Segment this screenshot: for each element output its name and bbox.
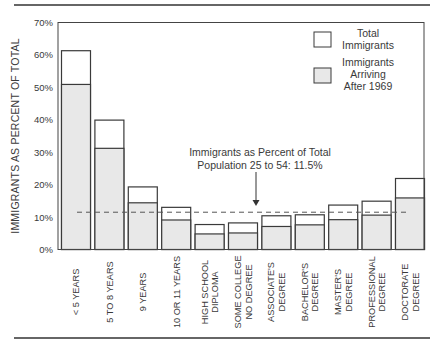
x-category-label: NO DEGREE <box>244 264 254 319</box>
x-category-label: BACHELOR'S <box>300 263 310 321</box>
y-tick-label: 40% <box>34 114 54 125</box>
bar-group <box>229 223 258 250</box>
legend-label: Immigrants <box>342 39 394 51</box>
x-category-label: < 5 YEARS <box>71 269 81 316</box>
bar-group <box>195 225 224 250</box>
legend-swatch <box>314 32 331 47</box>
bar-arriving-after-1969 <box>195 234 224 250</box>
x-category-label: ASSOCIATE'S <box>266 262 276 322</box>
annotation-text: Immigrants as Percent of Total <box>189 146 331 158</box>
annotation-text: Population 25 to 54: 11.5% <box>197 159 322 171</box>
bar-arriving-after-1969 <box>262 226 291 249</box>
x-category-label: MASTER'S <box>333 269 343 315</box>
bar-group <box>295 215 324 250</box>
bar-group <box>162 207 191 249</box>
bar-arriving-after-1969 <box>128 203 157 250</box>
bar-arriving-after-1969 <box>329 220 358 250</box>
x-category-label: DEGREE <box>277 273 287 312</box>
y-tick-label: 10% <box>34 212 54 223</box>
immigrants-education-bar-chart: IMMIGRANTS AS PERCENT OF TOTAL 0%10%20%3… <box>0 0 440 350</box>
legend: TotalImmigrantsImmigrantsArrivingAfter 1… <box>314 27 394 92</box>
x-category-label: DEGREE <box>310 273 320 312</box>
x-category-label: HIGH SCHOOL <box>200 260 210 324</box>
y-tick-label: 30% <box>34 147 54 158</box>
bar-group <box>262 216 291 250</box>
y-tick-label: 0% <box>39 244 53 255</box>
x-category-label: DEGREE <box>344 273 354 312</box>
bar-arriving-after-1969 <box>295 225 324 250</box>
legend-label: Arriving <box>350 68 386 80</box>
y-tick-label: 60% <box>34 49 54 60</box>
bar-arriving-after-1969 <box>95 148 124 249</box>
legend-swatch <box>314 68 331 83</box>
y-axis-label: IMMIGRANTS AS PERCENT OF TOTAL <box>9 38 21 233</box>
y-axis-title: IMMIGRANTS AS PERCENT OF TOTAL <box>9 38 21 233</box>
x-category-label: 5 TO 8 YEARS <box>105 261 115 322</box>
bar-group <box>95 120 124 249</box>
legend-label: Total <box>357 27 379 39</box>
y-axis-ticks: 0%10%20%30%40%50%60%70% <box>34 17 54 255</box>
x-axis-categories: < 5 YEARS5 TO 8 YEARS9 YEARS10 OR 11 YEA… <box>71 255 420 328</box>
legend-label: Immigrants <box>342 56 394 68</box>
bar-arriving-after-1969 <box>362 215 391 249</box>
bar-group <box>62 51 91 250</box>
x-category-label: DEGREE <box>377 273 387 312</box>
bar-group <box>128 187 157 250</box>
arrow-down-icon <box>253 200 260 206</box>
y-tick-label: 20% <box>34 179 54 190</box>
x-category-label: DEGREE <box>411 273 421 312</box>
x-category-label: 9 YEARS <box>138 273 148 312</box>
x-category-label: DOCTORATE <box>400 264 410 321</box>
reference-annotation: Immigrants as Percent of TotalPopulation… <box>189 146 331 206</box>
legend-label: After 1969 <box>344 80 393 92</box>
x-category-label: 10 OR 11 YEARS <box>172 256 182 328</box>
y-tick-label: 50% <box>34 82 54 93</box>
bar-arriving-after-1969 <box>229 233 258 250</box>
x-category-label: DIPLOMA <box>210 270 220 312</box>
x-category-label: PROFESSIONAL <box>367 256 377 327</box>
bar-group <box>396 178 425 249</box>
bar-group <box>362 201 391 249</box>
y-tick-label: 70% <box>34 17 54 28</box>
x-category-label: SOME COLLEGE <box>233 255 243 328</box>
bar-arriving-after-1969 <box>62 84 91 249</box>
bar-arriving-after-1969 <box>396 198 425 250</box>
bar-arriving-after-1969 <box>162 220 191 250</box>
